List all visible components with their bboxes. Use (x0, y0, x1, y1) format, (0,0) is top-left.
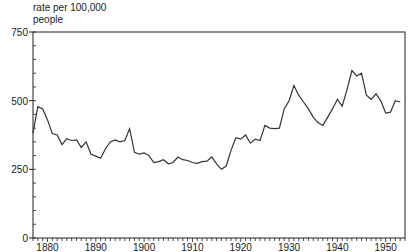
y-axis-label: rate per 100,000 people (33, 2, 106, 26)
x-tick-label: 1910 (181, 242, 204, 252)
x-tick-label: 1940 (326, 242, 349, 252)
x-tick-label: 1900 (133, 242, 156, 252)
line-chart: 0250500750 18801890190019101920193019401… (0, 0, 409, 252)
x-tick-label: 1950 (375, 242, 398, 252)
y-tick-label: 0 (22, 233, 28, 244)
y-tick-label: 250 (11, 164, 28, 175)
y-axis-label-line-2: people (33, 14, 106, 26)
x-axis: 18801890190019101920193019401950 (33, 238, 405, 252)
plot-frame (33, 32, 405, 238)
y-tick-label: 750 (11, 27, 28, 38)
x-tick-label: 1920 (230, 242, 253, 252)
x-tick-label: 1930 (278, 242, 301, 252)
y-axis-label-line-1: rate per 100,000 (33, 2, 106, 14)
x-tick-label: 1880 (36, 242, 59, 252)
x-tick-label: 1890 (85, 242, 108, 252)
data-line (33, 71, 400, 170)
y-tick-label: 500 (11, 96, 28, 107)
y-axis: 0250500750 (11, 27, 36, 244)
